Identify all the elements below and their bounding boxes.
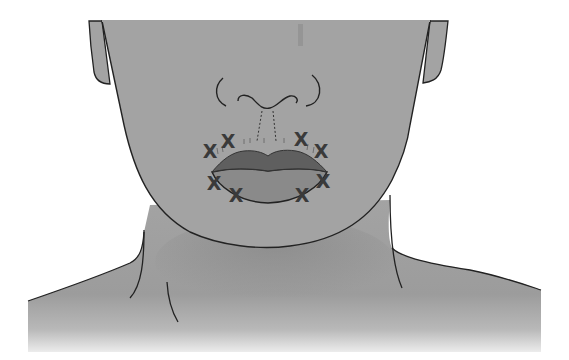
injection-point-marker: X xyxy=(203,142,218,161)
injection-point-marker: X xyxy=(294,130,309,149)
lip-injection-diagram: X X X X X X X X xyxy=(0,0,569,360)
face-illustration xyxy=(0,0,569,360)
injection-point-marker: X xyxy=(221,132,236,151)
injection-point-marker: X xyxy=(316,172,331,191)
injection-point-marker: X xyxy=(229,186,244,205)
injection-point-marker: X xyxy=(295,186,310,205)
nose-bridge-shade xyxy=(298,24,303,46)
injection-point-marker: X xyxy=(314,142,329,161)
injection-point-marker: X xyxy=(207,174,222,193)
